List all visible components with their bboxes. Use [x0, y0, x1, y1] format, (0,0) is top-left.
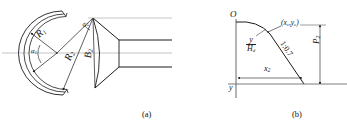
point-c-leader	[268, 26, 281, 32]
label-alpha1: α1	[31, 48, 37, 55]
wall-step-bottom-edge	[67, 90, 68, 94]
caption-b: (b)	[292, 110, 302, 119]
ratio-denominator: Hd	[246, 45, 256, 53]
label-B2: B2	[83, 49, 94, 59]
transition-wall-upper	[93, 18, 119, 40]
label-y-axis: y	[229, 84, 233, 92]
ratio-leader	[256, 29, 266, 36]
label-point-c: (xc,yc)	[281, 19, 299, 28]
label-P2: P2	[312, 36, 322, 44]
caption-a: (a)	[142, 110, 151, 119]
point-c-marker	[267, 31, 269, 33]
label-x2: x2	[264, 64, 270, 73]
label-origin-O: O	[230, 10, 237, 19]
panel-b-geometry	[228, 19, 347, 98]
wall-step-top-edge	[66, 13, 67, 17]
figure-root: R1 α1 α2 R2 B2 (a) O (xc,yc) y Hd 1:0.7 …	[0, 0, 347, 133]
alpha1-lower-ray	[33, 53, 57, 72]
label-y-over-Hd: y Hd	[246, 36, 256, 53]
alpha1-angle-arc	[38, 45, 41, 63]
